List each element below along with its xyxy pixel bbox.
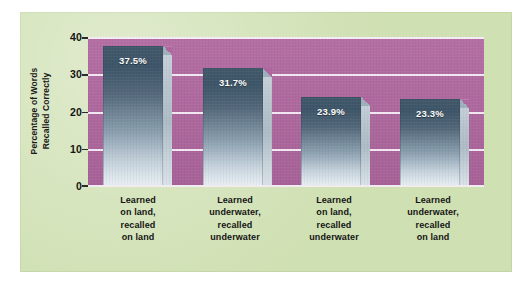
bar-side-face — [361, 97, 370, 186]
x-label-group-1-line-4: on land — [122, 232, 155, 242]
x-label-group-2-line-1: Learned — [217, 195, 253, 205]
y-tick-label-20: 20 — [56, 106, 82, 118]
bar-value-label: 37.5% — [103, 55, 163, 66]
y-tick-label-30: 30 — [56, 68, 82, 80]
chart-figure: Percentage of Words Recalled Correctly 0… — [0, 0, 524, 286]
bar-learned-underwater-recalled-on-land[interactable]: 23.3% — [400, 99, 460, 186]
gridline-0 — [88, 185, 484, 187]
y-tick-mark-40 — [82, 37, 88, 39]
y-axis-title: Percentage of Words Recalled Correctly — [26, 28, 54, 193]
y-axis-title-line-2: Recalled Correctly — [40, 72, 50, 148]
x-label-group-3-line-2: on land, — [316, 207, 351, 217]
x-label-group-2-line-4: underwater — [210, 232, 260, 242]
x-label-group-4-line-1: Learned — [415, 195, 451, 205]
bar-front-face — [103, 46, 163, 186]
x-label-group-4-line-3: recalled — [416, 220, 451, 230]
y-tick-mark-20 — [82, 112, 88, 114]
bar-top-bevel — [361, 97, 370, 106]
y-tick-label-0: 0 — [56, 180, 82, 192]
x-label-group-1-line-3: recalled — [121, 220, 156, 230]
plot-area: 37.5% 31.7% 23.9% 23.3% — [88, 37, 484, 186]
bar-value-label: 23.3% — [400, 108, 460, 119]
x-label-group-3-line-4: underwater — [309, 232, 359, 242]
x-label-group-2-line-3: recalled — [218, 220, 253, 230]
x-label-group-4: Learned underwater, recalled on land — [387, 194, 479, 244]
bar-value-label: 31.7% — [203, 77, 263, 88]
x-label-group-3-line-1: Learned — [316, 195, 352, 205]
bar-value-label: 23.9% — [301, 106, 361, 117]
x-label-group-1: Learned on land, recalled on land — [92, 194, 184, 244]
x-label-group-3: Learned on land, recalled underwater — [288, 194, 380, 244]
x-label-group-2: Learned underwater, recalled underwater — [189, 194, 281, 244]
y-tick-mark-0 — [82, 185, 88, 187]
x-label-group-4-line-2: underwater, — [407, 207, 459, 217]
bar-top-bevel — [460, 99, 469, 108]
y-axis-title-line-1: Percentage of Words — [29, 67, 39, 154]
y-tick-mark-10 — [82, 149, 88, 151]
y-axis-tick-labels: 0 10 20 30 40 — [56, 37, 82, 186]
y-tick-label-40: 40 — [56, 31, 82, 43]
y-tick-label-10: 10 — [56, 143, 82, 155]
gridline-40 — [88, 37, 484, 39]
bar-side-face — [263, 68, 272, 186]
x-label-group-1-line-1: Learned — [120, 195, 156, 205]
bar-top-bevel — [163, 46, 172, 55]
y-tick-mark-30 — [82, 74, 88, 76]
x-label-group-4-line-4: on land — [417, 232, 450, 242]
bar-side-face — [460, 99, 469, 186]
x-label-group-1-line-2: on land, — [120, 207, 155, 217]
x-axis-category-labels: Learned on land, recalled on land Learne… — [88, 194, 484, 254]
bar-learned-on-land-recalled-underwater[interactable]: 23.9% — [301, 97, 361, 186]
bar-side-face — [163, 46, 172, 186]
bar-learned-underwater-recalled-underwater[interactable]: 31.7% — [203, 68, 263, 186]
x-label-group-2-line-2: underwater, — [209, 207, 261, 217]
bar-top-bevel — [263, 68, 272, 77]
x-label-group-3-line-3: recalled — [317, 220, 352, 230]
bar-learned-on-land-recalled-on-land[interactable]: 37.5% — [103, 46, 163, 186]
